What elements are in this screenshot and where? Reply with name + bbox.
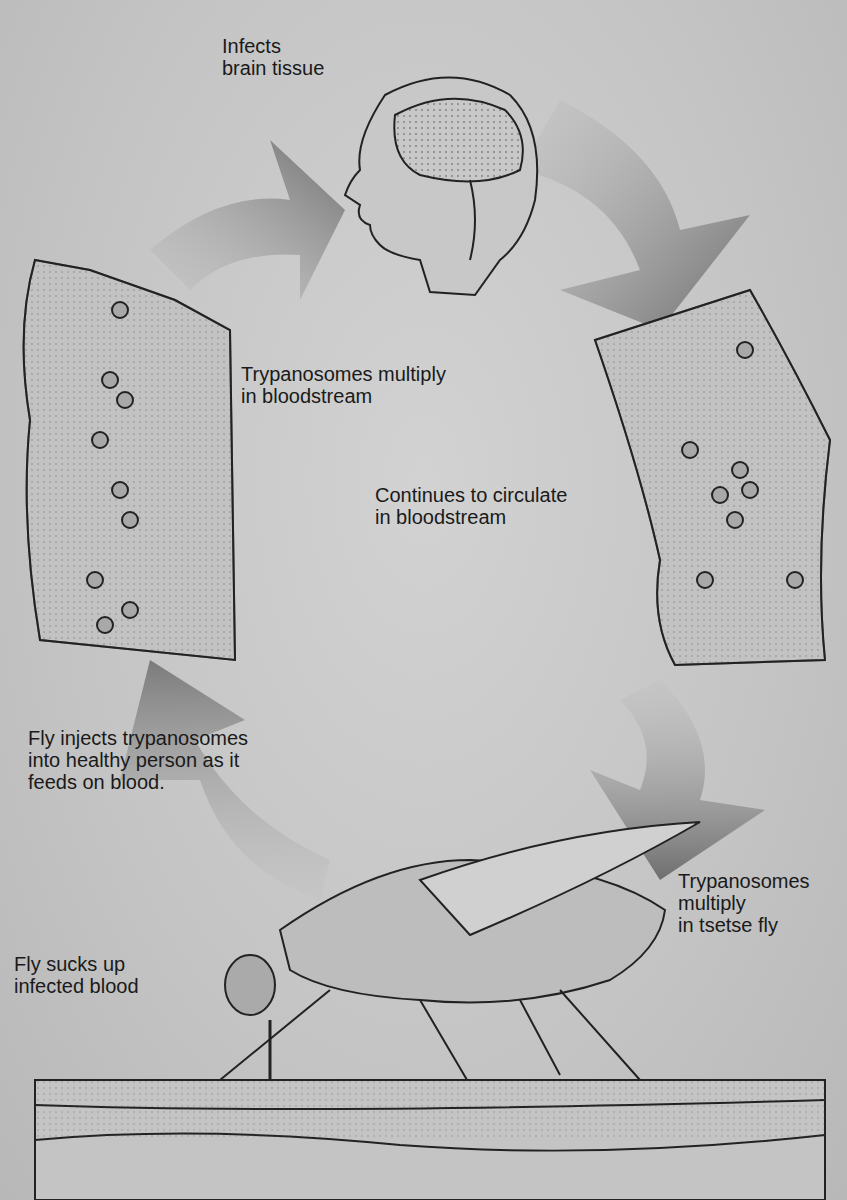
arrow-to-right-vessel [520,100,750,330]
label-fly-injects: Fly injects trypanosomes into healthy pe… [28,727,248,793]
blood-vessel-right-illustration [595,290,830,665]
human-head-illustration [345,78,537,296]
label-infects-brain: Infects brain tissue [222,35,324,79]
illustration-layer [0,0,847,1200]
label-fly-sucks: Fly sucks up infected blood [14,953,139,997]
skin-cross-section-illustration [35,1080,825,1200]
label-circulate: Continues to circulate in bloodstream [375,484,567,528]
label-multiply-fly: Trypanosomes multiply in tsetse fly [678,870,810,936]
blood-vessel-left-illustration [24,260,235,660]
arrow-to-brain [150,140,345,300]
label-multiply-bloodstream: Trypanosomes multiply in bloodstream [241,363,446,407]
